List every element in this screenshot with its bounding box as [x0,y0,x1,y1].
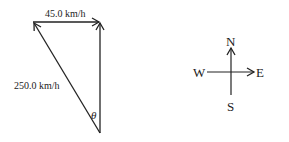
compass-east: E [256,65,264,80]
airspeed-label: 250.0 km/h [14,80,60,91]
vector-diagram: 45.0 km/h 250.0 km/h θ N S W E [0,0,289,142]
compass-south: S [227,99,234,114]
velocity-triangle: 45.0 km/h 250.0 km/h θ [14,8,100,133]
compass-rose: N S W E [193,34,264,114]
compass-west: W [193,65,206,80]
angle-theta-label: θ [91,109,97,121]
compass-north: N [226,34,236,49]
wind-speed-label: 45.0 km/h [45,8,86,19]
